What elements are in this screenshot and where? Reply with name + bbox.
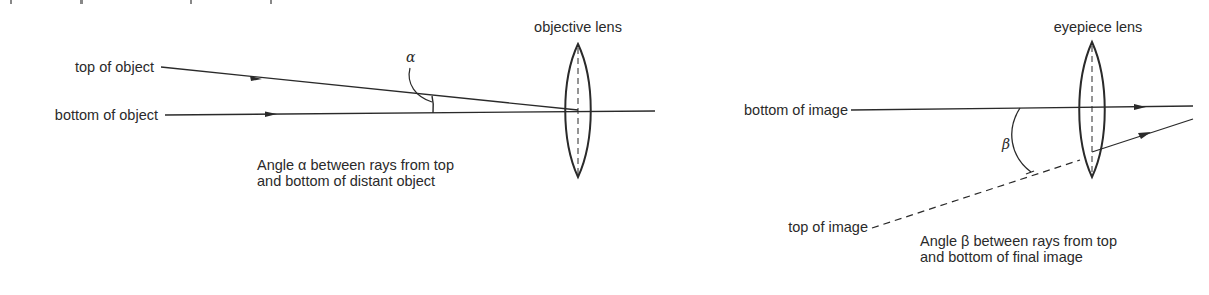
top-of-object-label: top of object <box>75 59 154 75</box>
top-of-image-virtual-ray <box>872 160 1080 228</box>
eyepiece-lens-label: eyepiece lens <box>1054 19 1143 35</box>
bottom-image-ray-arrow-icon <box>1134 104 1146 110</box>
alpha-symbol: α <box>406 49 416 65</box>
top-of-image-label: top of image <box>788 219 868 235</box>
objective-lens-label: objective lens <box>534 19 622 35</box>
bottom-ray-arrow-icon <box>265 112 277 118</box>
alpha-angle-arc <box>432 96 433 113</box>
beta-symbol: β <box>1001 136 1010 152</box>
bottom-of-image-label: bottom of image <box>744 102 848 118</box>
bottom-of-object-ray <box>165 111 655 115</box>
emerging-ray-arrow-icon <box>1138 132 1151 139</box>
eyepiece-panel: eyepiece lens bottom of image top of ima… <box>744 19 1193 265</box>
alpha-caption-line1: Angle α between rays from top <box>257 157 454 173</box>
alpha-leader-line <box>409 68 432 102</box>
beta-caption-line2: and bottom of final image <box>920 249 1083 265</box>
alpha-caption-line2: and bottom of distant object <box>257 173 435 189</box>
telescope-angular-magnification-diagram: objective lens top of object bottom of o… <box>0 0 1209 295</box>
top-of-object-ray <box>161 67 578 110</box>
bottom-of-object-label: bottom of object <box>55 107 158 123</box>
beta-caption-line1: Angle β between rays from top <box>920 233 1117 249</box>
objective-panel: objective lens top of object bottom of o… <box>55 19 655 189</box>
beta-angle-arc <box>1012 108 1031 172</box>
diagram-canvas: objective lens top of object bottom of o… <box>0 0 1209 295</box>
